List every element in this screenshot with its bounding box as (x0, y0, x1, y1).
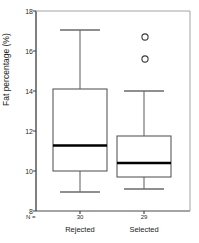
n-prefix-label: N = (26, 214, 36, 220)
boxplot-canvas (0, 0, 199, 243)
box-iqr-selected (117, 136, 171, 177)
group-label-selected: Selected (119, 225, 169, 234)
y-tick-label-18: 18 (17, 8, 33, 15)
group-label-rejected: Rejected (55, 225, 105, 234)
box-group-selected (117, 34, 171, 189)
box-group-rejected (53, 30, 107, 192)
boxplot-figure: Fat percentage (%) 18 16 14 12 10 8 (0, 0, 199, 243)
outlier-marker-selected-2 (142, 56, 148, 62)
y-tick-label-10: 10 (17, 168, 33, 175)
y-tick-label-16: 16 (17, 48, 33, 55)
outlier-marker-selected-1 (142, 34, 148, 40)
y-tick-label-12: 12 (17, 128, 33, 135)
y-tick-label-14: 14 (17, 88, 33, 95)
box-iqr-rejected (53, 89, 107, 171)
n-count-selected: 29 (130, 214, 158, 220)
y-axis-label: Fat percentage (%) (1, 92, 11, 106)
n-count-rejected: 30 (66, 214, 94, 220)
